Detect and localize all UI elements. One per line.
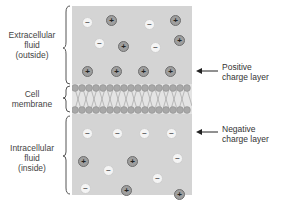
brace-icons [62,4,72,199]
label-line: fluid [2,40,62,50]
positive-ion: + [82,66,93,77]
negative-ion: − [172,153,183,164]
label-line: (outside) [2,50,62,60]
negative-ion: − [82,128,93,139]
positive-ion: + [174,35,185,46]
positive-ion: + [127,156,138,167]
positive-ion: + [165,66,176,77]
positive-arrow-icon [196,68,218,74]
label-line: Intracellular [2,143,62,153]
negative-ion: − [103,165,114,176]
negative-ion: − [150,42,161,53]
label-line: Extracellular [2,30,62,40]
positive-ion: + [118,41,129,52]
label-line: (inside) [2,163,62,173]
positive-ion: + [121,185,132,196]
negative-ion: − [82,17,93,28]
negative-ion: − [152,173,163,184]
extracellular-label: Extracellular fluid (outside) [2,30,62,60]
intracellular-brace-icon [63,116,70,194]
negative-ion: − [139,128,150,139]
label-line: Cell [2,89,62,99]
positive-charge-label: Positive charge layer [222,62,269,82]
positive-ion: + [174,189,185,200]
label-line: Negative [222,124,269,134]
membrane-brace-icon [63,86,70,112]
label-line: charge layer [222,72,269,82]
label-line: membrane [2,99,62,109]
negative-ion: − [80,183,91,194]
label-line: Positive [222,62,269,72]
membrane-label: Cell membrane [2,89,62,109]
negative-ion: − [144,19,155,30]
positive-ion: + [111,66,122,77]
extracellular-brace-icon [63,6,70,84]
negative-ion: − [166,128,177,139]
negative-charge-label: Negative charge layer [222,124,269,144]
intracellular-label: Intracellular fluid (inside) [2,143,62,173]
cell-membrane [72,84,192,114]
label-line: charge layer [222,134,269,144]
negative-ion: − [112,128,123,139]
positive-ion: + [78,156,89,167]
positive-ion: + [170,15,181,26]
negative-ion: − [94,38,105,49]
label-line: fluid [2,153,62,163]
positive-ion: + [106,15,117,26]
positive-ion: + [138,66,149,77]
negative-arrow-icon [196,129,218,135]
